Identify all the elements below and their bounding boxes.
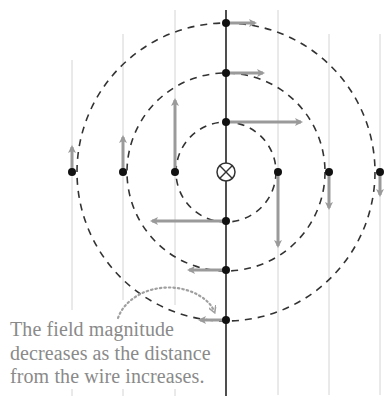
sample-point	[222, 69, 230, 77]
caption-line: The field magnitude	[10, 318, 211, 342]
sample-point	[222, 316, 230, 324]
sample-point	[274, 168, 282, 176]
caption-line: from the wire increases.	[10, 365, 211, 389]
caption-line: decreases as the distance	[10, 342, 211, 366]
sample-point	[222, 19, 230, 27]
sample-point	[222, 266, 230, 274]
sample-point	[376, 168, 384, 176]
sample-point	[68, 168, 76, 176]
sample-point	[171, 168, 179, 176]
sample-point	[222, 217, 230, 225]
wire-into-page-icon	[217, 163, 235, 181]
caption: The field magnitude decreases as the dis…	[10, 318, 211, 389]
sample-point	[119, 168, 127, 176]
sample-point	[325, 168, 333, 176]
callout-arrow	[118, 287, 214, 318]
sample-point	[222, 118, 230, 126]
